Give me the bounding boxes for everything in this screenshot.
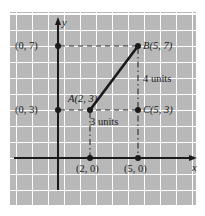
y-axis-arrowhead (55, 17, 61, 25)
point-marker-origin-y7 (55, 43, 61, 49)
coordinate-plane-figure: x y (0, 7) B(5, 7) A(2, 3) (0, 3) C(5, 3… (0, 0, 205, 216)
point-label-foot-x2: (2, 0) (76, 164, 99, 175)
point-marker-foot-x2 (87, 155, 93, 161)
point-label-b: B(5, 7) (143, 41, 172, 52)
point-marker-a (87, 107, 93, 113)
point-label-a: A(2, 3) (68, 94, 97, 105)
point-label-c: C(5, 3) (143, 105, 173, 116)
segment-ab (90, 46, 138, 110)
point-marker-b (135, 43, 141, 49)
point-marker-foot-x5 (135, 155, 141, 161)
y-axis-label: y (62, 18, 67, 29)
point-label-origin-y7: (0, 7) (15, 41, 38, 52)
point-marker-origin-y3 (55, 107, 61, 113)
x-axis-arrowhead (189, 155, 197, 161)
annotation-vertical-distance: 4 units (143, 74, 171, 85)
point-marker-c (135, 107, 141, 113)
point-label-origin-y3: (0, 3) (15, 105, 38, 116)
point-label-foot-x5: (5, 0) (124, 164, 147, 175)
x-axis-label: x (192, 163, 197, 174)
annotation-horizontal-distance: 3 units (90, 117, 118, 128)
